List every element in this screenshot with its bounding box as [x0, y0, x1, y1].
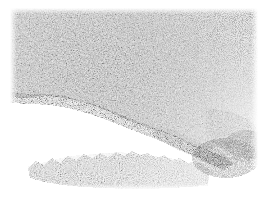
micrograph-plate: [10, 8, 258, 190]
photomicrograph-figure: [0, 0, 267, 199]
scan-grain-overlay: [10, 8, 258, 190]
